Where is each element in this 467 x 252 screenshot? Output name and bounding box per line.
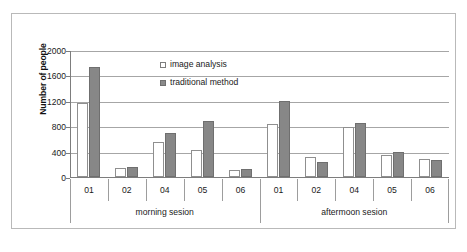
bar-traditional-method-8	[393, 152, 404, 177]
x-tick-label: 06	[411, 179, 449, 201]
category-separator	[184, 179, 185, 201]
category-separator	[260, 179, 261, 201]
y-tick-label: 2000	[32, 47, 66, 56]
bar-traditional-method-4	[241, 169, 252, 177]
bar-image-analysis-1	[115, 168, 126, 177]
y-tick-label: 0	[32, 174, 66, 183]
x-tick-label: 05	[184, 179, 222, 201]
group-separator	[448, 201, 449, 223]
category-separator	[411, 179, 412, 201]
legend-label: image analysis	[170, 58, 227, 71]
x-tick-label: 04	[146, 179, 184, 201]
bar-traditional-method-1	[127, 167, 138, 177]
category-separator	[335, 179, 336, 201]
category-separator	[222, 179, 223, 201]
x-group-label: morning sesion	[70, 201, 260, 223]
x-tick-label: 05	[373, 179, 411, 201]
bar-traditional-method-3	[203, 121, 214, 178]
x-tick-label: 02	[108, 179, 146, 201]
figure-caption	[0, 236, 467, 250]
dark-square-icon	[160, 80, 166, 86]
bar-traditional-method-5	[279, 101, 290, 177]
gridline	[70, 127, 449, 128]
group-separator	[70, 201, 71, 223]
x-tick-label: 06	[222, 179, 260, 201]
x-tick-label: 01	[70, 179, 108, 201]
x-tick-label: 04	[335, 179, 373, 201]
y-axis-line	[70, 51, 71, 178]
category-separator	[108, 179, 109, 201]
bar-image-analysis-9	[419, 159, 430, 177]
bar-image-analysis-3	[191, 150, 202, 177]
x-tick-label: 01	[260, 179, 298, 201]
light-square-icon	[160, 62, 166, 68]
bar-traditional-method-0	[89, 67, 100, 177]
gridline	[70, 76, 449, 77]
figure-frame: Number of people 2000 1600 1200 800 400 …	[11, 13, 456, 229]
category-separator	[70, 179, 71, 201]
bar-image-analysis-8	[381, 155, 392, 177]
gridline	[70, 51, 449, 52]
category-separator	[146, 179, 147, 201]
bar-image-analysis-2	[153, 142, 164, 177]
bar-image-analysis-6	[305, 157, 316, 177]
category-separator	[373, 179, 374, 201]
bar-image-analysis-7	[343, 127, 354, 177]
legend-item-image-analysis: image analysis	[160, 58, 238, 71]
legend-label: traditional method	[170, 76, 238, 89]
x-axis-line	[70, 177, 449, 178]
bar-image-analysis-0	[77, 103, 88, 177]
bar-traditional-method-9	[431, 160, 442, 177]
bar-image-analysis-4	[229, 170, 240, 177]
x-axis-category-row: 01020405060102040506	[70, 179, 449, 201]
gridline	[70, 102, 449, 103]
y-axis-ticks: 2000 1600 1200 800 400 0	[30, 51, 66, 178]
x-axis-group-row: morning sesionaftermoon sesion	[70, 201, 449, 223]
y-tick-label: 1200	[32, 98, 66, 107]
x-group-label: aftermoon sesion	[260, 201, 450, 223]
legend-item-traditional-method: traditional method	[160, 76, 238, 89]
y-tick-label: 400	[32, 149, 66, 158]
y-tick-label: 1600	[32, 72, 66, 81]
chart-legend: image analysis traditional method	[160, 58, 238, 94]
bar-traditional-method-7	[355, 123, 366, 177]
category-separator	[297, 179, 298, 201]
bar-image-analysis-5	[267, 124, 278, 177]
plot-area	[70, 51, 449, 178]
bar-traditional-method-6	[317, 162, 328, 177]
bar-traditional-method-2	[165, 133, 176, 177]
x-tick-label: 02	[297, 179, 335, 201]
y-tick-label: 800	[32, 123, 66, 132]
group-separator	[260, 201, 261, 223]
category-separator	[448, 179, 449, 201]
